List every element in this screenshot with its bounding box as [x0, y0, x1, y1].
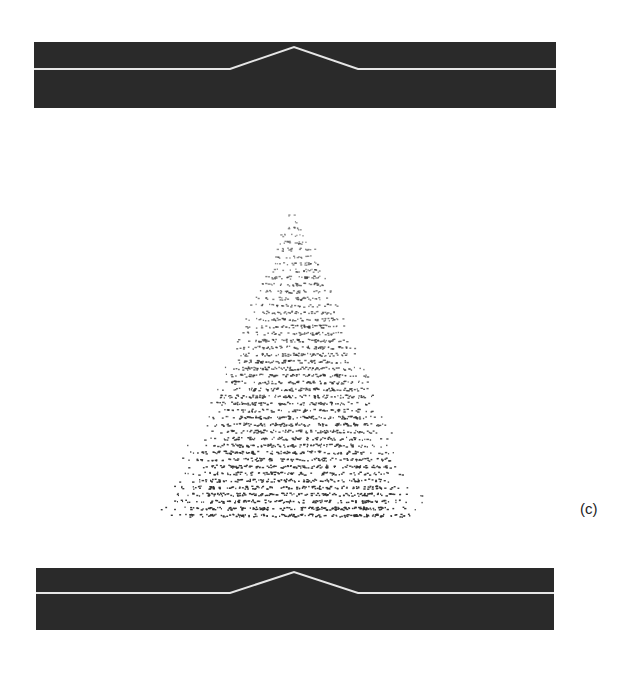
bottom-profile-line [36, 568, 554, 630]
scatter-cloud [150, 200, 450, 530]
top-profile-band [34, 42, 556, 108]
top-profile-line [34, 42, 556, 108]
panel-label: (c) [580, 500, 598, 517]
bottom-profile-band [36, 568, 554, 630]
